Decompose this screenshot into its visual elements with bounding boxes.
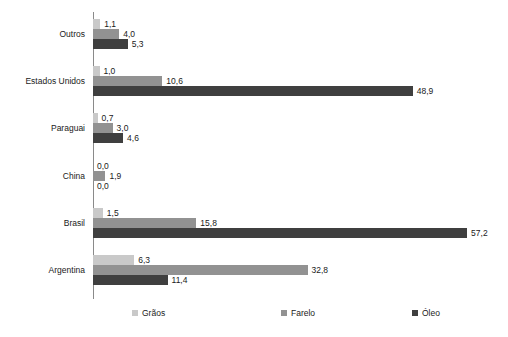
bar-farelo-paraguai xyxy=(93,123,113,133)
bar-value-label: 4,0 xyxy=(123,29,135,39)
legend-swatch-icon xyxy=(412,310,418,316)
bar-farelo-brasil xyxy=(93,218,196,228)
bar-value-label: 11,4 xyxy=(172,275,188,285)
bar-gros-estadosunidos xyxy=(93,66,100,76)
bar-value-label: 0,7 xyxy=(102,113,114,123)
legend-label: Óleo xyxy=(422,308,440,318)
bar-farelo-argentina xyxy=(93,265,308,275)
bar-value-label: 15,8 xyxy=(200,218,217,228)
bar-gros-paraguai xyxy=(93,113,98,123)
bar-farelo-estadosunidos xyxy=(93,76,162,86)
legend-entry-farelo[interactable]: Farelo xyxy=(281,306,315,320)
legend-swatch-icon xyxy=(132,310,138,316)
legend-entry-leo[interactable]: Óleo xyxy=(412,306,440,320)
category-group: Argentina6,332,811,4 xyxy=(0,255,508,285)
chart-legend: GrãosFareloÓleo xyxy=(0,306,508,324)
legend-label: Grãos xyxy=(142,308,165,318)
category-group: China0,01,90,0 xyxy=(0,161,508,191)
legend-swatch-icon xyxy=(281,310,287,316)
bar-value-label: 10,6 xyxy=(166,76,183,86)
bar-leo-argentina xyxy=(93,275,168,285)
category-group: Outros1,14,05,3 xyxy=(0,19,508,49)
bar-farelo-outros xyxy=(93,29,119,39)
category-group: Brasil1,515,857,2 xyxy=(0,208,508,238)
bar-value-label: 0,0 xyxy=(97,161,109,171)
category-axis-label: Paraguai xyxy=(0,123,85,133)
legend-label: Farelo xyxy=(291,308,315,318)
bar-value-label: 0,0 xyxy=(97,181,109,191)
category-axis-label: Outros xyxy=(0,29,85,39)
bar-leo-brasil xyxy=(93,228,467,238)
bar-gros-argentina xyxy=(93,255,134,265)
bar-value-label: 1,5 xyxy=(107,208,119,218)
bar-value-label: 48,9 xyxy=(417,86,434,96)
category-axis-label: Brasil xyxy=(0,218,85,228)
legend-entry-gros[interactable]: Grãos xyxy=(132,306,165,320)
category-axis-label: China xyxy=(0,171,85,181)
category-group: Paraguai0,73,04,6 xyxy=(0,113,508,143)
bar-farelo-china xyxy=(93,171,105,181)
bar-value-label: 3,0 xyxy=(117,123,129,133)
bar-value-label: 32,8 xyxy=(312,265,329,275)
bar-value-label: 5,3 xyxy=(132,39,144,49)
bar-leo-estadosunidos xyxy=(93,86,413,96)
bar-leo-paraguai xyxy=(93,133,123,143)
bar-value-label: 4,6 xyxy=(127,133,139,143)
bar-value-label: 1,9 xyxy=(109,171,121,181)
bar-value-label: 57,2 xyxy=(471,228,488,238)
bar-gros-brasil xyxy=(93,208,103,218)
bar-value-label: 6,3 xyxy=(138,255,150,265)
horizontal-bar-chart: Outros1,14,05,3Estados Unidos1,010,648,9… xyxy=(0,0,508,337)
category-group: Estados Unidos1,010,648,9 xyxy=(0,66,508,96)
plot-area: Outros1,14,05,3Estados Unidos1,010,648,9… xyxy=(0,0,508,300)
bar-value-label: 1,1 xyxy=(104,19,116,29)
category-axis-label: Argentina xyxy=(0,265,85,275)
category-axis-label: Estados Unidos xyxy=(0,76,85,86)
bar-value-label: 1,0 xyxy=(104,66,116,76)
bar-gros-outros xyxy=(93,19,100,29)
bar-leo-outros xyxy=(93,39,128,49)
